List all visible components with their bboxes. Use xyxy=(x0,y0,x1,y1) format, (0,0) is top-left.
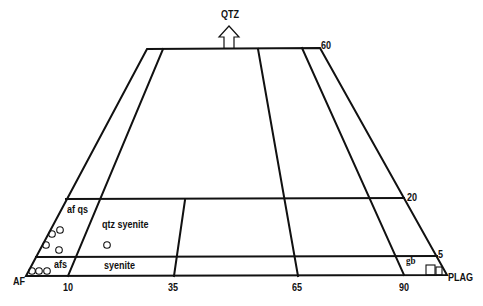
field-syenite: syenite xyxy=(104,260,135,271)
q20-line xyxy=(66,198,404,199)
p90-line xyxy=(302,48,404,275)
apex-qtz-label: QTZ xyxy=(221,9,239,20)
p35-line xyxy=(174,200,185,276)
field-afs: afs xyxy=(54,259,67,270)
q-tick-60: 60 xyxy=(321,40,331,51)
q-tick-5: 5 xyxy=(438,249,443,260)
p-tick-10: 10 xyxy=(63,282,73,293)
field-af-qs: af qs xyxy=(67,204,88,215)
q-tick-20: 20 xyxy=(407,192,417,203)
p-tick-35: 35 xyxy=(168,282,178,293)
field-qtz-syenite: qtz syenite xyxy=(102,219,149,230)
q5-line xyxy=(36,256,437,257)
diagram-outline xyxy=(26,48,447,276)
p65-line xyxy=(258,49,298,276)
field-gb: gb xyxy=(406,255,416,266)
p-tick-90: 90 xyxy=(399,282,409,293)
p10-line xyxy=(68,49,163,276)
apex-af-label: AF xyxy=(13,276,25,287)
apex-plag-label: PLAG xyxy=(448,272,473,283)
p-tick-65: 65 xyxy=(292,282,302,293)
sample-circles xyxy=(29,227,111,275)
qtz-arrow-icon xyxy=(219,26,239,48)
sample-squares xyxy=(426,265,442,275)
